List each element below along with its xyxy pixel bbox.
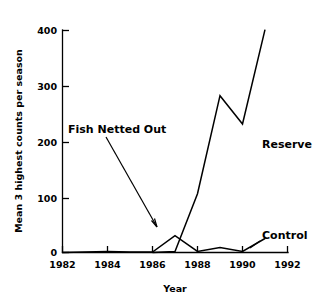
y-tick-label-0: 0 [50,247,57,258]
x-axis-title: Year [162,283,187,294]
y-tick-label-200: 200 [37,137,57,148]
x-tick-label-1984: 1984 [94,259,121,270]
y-axis-ticks [63,31,70,253]
control-leader-line [250,241,260,248]
series-label-reserve: Reserve [262,138,312,151]
x-tick-label-1988: 1988 [184,259,211,270]
x-tick-label-1992: 1992 [274,259,300,270]
y-tick-label-100: 100 [37,193,57,204]
x-tick-label-1982: 1982 [49,259,75,270]
y-tick-label-300: 300 [37,81,57,92]
series-label-control: Control [262,229,307,242]
x-tick-label-1990: 1990 [229,259,256,270]
x-tick-label-1986: 1986 [139,259,166,270]
annotation-arrow-line [106,137,157,227]
y-axis-title: Mean 3 highest counts per season [13,49,24,233]
line-chart: 400 300 200 100 0 1982 1984 1986 1988 19… [0,0,324,305]
chart-figure: 400 300 200 100 0 1982 1984 1986 1988 19… [0,0,324,305]
annotation-fish-netted-out: Fish Netted Out [68,123,166,136]
y-tick-label-400: 400 [37,25,57,36]
series-line-control [63,236,266,253]
series-line-reserve [153,30,266,253]
